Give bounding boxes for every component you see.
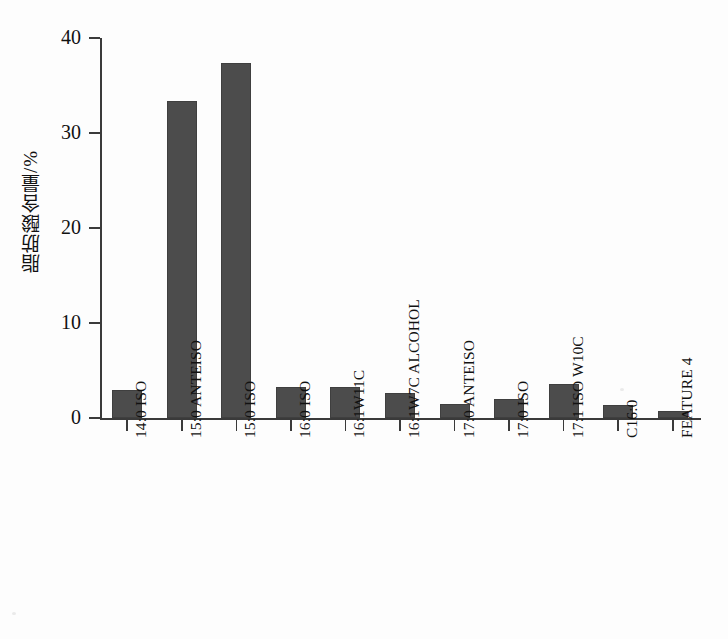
bar	[221, 63, 251, 418]
x-axis-label: 17:0 ISO	[515, 381, 531, 438]
x-axis-label: 17:0 ANTEISO	[461, 340, 477, 438]
y-axis-tick	[89, 37, 100, 39]
x-axis-label: C16:0	[624, 400, 640, 438]
x-axis-tick	[617, 419, 619, 431]
y-axis-title: 脂肪酸含量/%	[20, 150, 42, 273]
x-axis-label: 14:0 ISO	[133, 381, 149, 438]
y-axis-tick-label: 30	[21, 122, 81, 142]
y-axis-tick-label: 40	[21, 27, 81, 47]
x-axis-tick	[672, 419, 674, 431]
y-axis-tick	[89, 322, 100, 324]
x-axis-tick	[508, 419, 510, 431]
x-axis-tick	[290, 419, 292, 431]
x-axis-tick	[454, 419, 456, 431]
x-axis-tick	[236, 419, 238, 431]
x-axis-tick	[126, 419, 128, 431]
scan-speckle	[12, 612, 16, 615]
x-axis-label: 16:1W11C	[351, 370, 367, 438]
y-axis-tick-label: 0	[21, 407, 81, 427]
y-axis-tick	[89, 132, 100, 134]
x-axis-label: 15:0 ISO	[242, 381, 258, 438]
x-axis-label: 16:0 ISO	[297, 381, 313, 438]
x-axis-tick	[399, 419, 401, 431]
x-axis-label: 15:0 ANTEISO	[188, 340, 204, 438]
y-axis-tick	[89, 227, 100, 229]
y-axis-tick-label: 10	[21, 312, 81, 332]
x-axis-label: 16:1W7C ALCOHOL	[406, 299, 422, 438]
y-axis-tick	[89, 417, 100, 419]
x-axis-tick	[181, 419, 183, 431]
x-axis-label: FEATURE 4	[679, 357, 695, 438]
fatty-acid-composition-bar-chart: 脂肪酸含量/% 403020100 14:0 ISO15:0 ANTEISO15…	[0, 0, 728, 639]
scan-speckle	[620, 388, 624, 391]
x-axis-tick	[345, 419, 347, 431]
y-axis-tick-label: 20	[21, 217, 81, 237]
y-axis-line	[100, 38, 102, 419]
x-axis-tick	[563, 419, 565, 431]
y-axis-title-unit: /%	[20, 150, 41, 173]
x-axis-label: 17:1 ISO W10C	[570, 336, 586, 438]
